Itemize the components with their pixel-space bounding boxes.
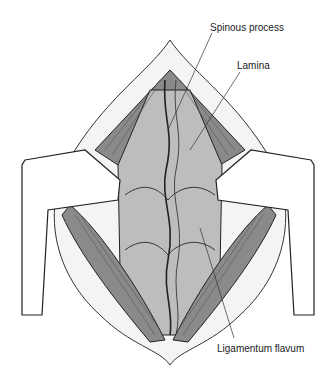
spine-illustration: [0, 0, 336, 375]
label-ligamentum-flavum: Ligamentum flavum: [217, 343, 304, 354]
label-lamina: Lamina: [237, 60, 270, 71]
label-spinous-process: Spinous process: [210, 22, 284, 33]
